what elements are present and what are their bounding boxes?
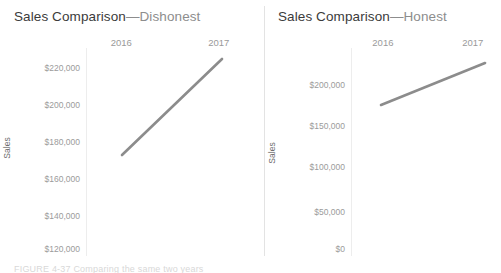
chart-panel-dishonest: Sales Comparison—Dishonest 2016 2017 $22… bbox=[0, 0, 262, 256]
panel-divider bbox=[264, 6, 265, 256]
series-line-dishonest bbox=[0, 0, 262, 256]
series-segment-2016-2017 bbox=[122, 59, 222, 155]
series-segment-2016-2017 bbox=[381, 63, 485, 105]
chart-panel-honest: Sales Comparison—Honest 2016 2017 $200,0… bbox=[266, 0, 501, 256]
figure-caption: FIGURE 4-37 Comparing the same two years bbox=[14, 264, 484, 273]
series-line-honest bbox=[266, 0, 501, 256]
figure-container: Sales Comparison—Dishonest 2016 2017 $22… bbox=[0, 0, 501, 273]
